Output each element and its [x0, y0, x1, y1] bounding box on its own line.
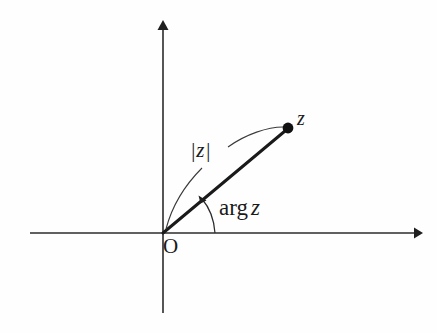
- x-axis: [30, 228, 423, 239]
- modulus-leader-line: [166, 168, 202, 229]
- argument-variable: z: [248, 195, 260, 220]
- argument-prefix: arg: [219, 195, 248, 220]
- argument-arc: [199, 196, 216, 234]
- point-z-leader-line: [228, 127, 283, 147]
- modulus-label: |z|: [190, 140, 211, 161]
- origin-label: O: [163, 236, 178, 257]
- y-axis-arrowhead-icon: [158, 20, 169, 30]
- complex-plane-figure: |z| argz z O: [0, 0, 437, 333]
- argument-arc-line: [202, 199, 215, 233]
- point-z-label: z: [297, 108, 305, 128]
- diagram-canvas: [0, 0, 437, 333]
- x-axis-arrowhead-icon: [414, 228, 423, 239]
- point-z-marker: [283, 123, 294, 134]
- argument-label: argz: [219, 196, 260, 219]
- y-axis: [158, 20, 169, 313]
